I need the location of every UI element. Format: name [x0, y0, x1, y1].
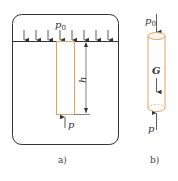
weight-label: G [152, 65, 161, 76]
bottom-pressure-label: p [68, 119, 75, 130]
top-pressure-label: p0 [145, 15, 156, 28]
bottom-pressure-label-b: p [148, 123, 155, 134]
height-label: h [77, 77, 88, 83]
panel-b: p0 G p b) [145, 14, 165, 165]
liquid-column [57, 42, 75, 115]
panel-a: p0 h p a) [13, 15, 119, 166]
cylinder-top [148, 33, 165, 40]
container-outline [13, 15, 119, 145]
surface-pressure-arrows [24, 30, 108, 40]
caption-b: b) [150, 155, 159, 165]
caption-a: a) [58, 155, 67, 165]
hydrostatic-diagram: p0 h p a) p0 G p b) [0, 0, 178, 181]
surface-pressure-label: p0 [55, 19, 66, 32]
